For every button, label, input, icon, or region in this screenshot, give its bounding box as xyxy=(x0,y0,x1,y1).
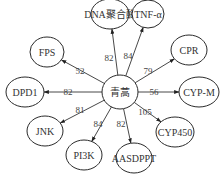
network-diagram: 828452798256811058482 青蒿DNA聚合酶TNF-αFPSCP… xyxy=(0,0,224,181)
node-fps: FPS xyxy=(30,37,64,67)
edge-weight-dpd1: 82 xyxy=(64,87,73,97)
node-center-label: 青蒿 xyxy=(110,86,130,98)
edge-weight-aasdppt: 82 xyxy=(117,119,126,129)
edge-weight-pi3k: 84 xyxy=(94,119,104,129)
node-cyp450: CYP450 xyxy=(156,117,194,147)
edge-weight-cypm: 56 xyxy=(150,87,160,97)
edge-weight-cyp450: 105 xyxy=(138,107,152,117)
node-aasdppt: AASDPPT xyxy=(112,143,156,173)
node-tnf: TNF-α xyxy=(132,0,164,28)
node-cpr: CPR xyxy=(171,35,207,65)
node-cyp450-label: CYP450 xyxy=(158,127,192,138)
node-jnk: JNK xyxy=(27,116,63,146)
node-dpd1: DPD1 xyxy=(6,77,44,107)
node-dna: DNA聚合酶 xyxy=(84,0,136,29)
node-cypm-label: CYP-M xyxy=(183,87,215,98)
edge-cpr xyxy=(135,59,174,83)
nodes: 青蒿DNA聚合酶TNF-αFPSCPRDPD1CYP-MJNKCYP450PI3… xyxy=(6,0,219,173)
node-aasdppt-label: AASDPPT xyxy=(112,153,156,164)
edge-weight-dna: 82 xyxy=(105,53,114,63)
edge-weight-cpr: 79 xyxy=(144,66,154,76)
node-tnf-label: TNF-α xyxy=(134,9,162,20)
node-pi3k-label: PI3K xyxy=(73,150,95,161)
node-pi3k: PI3K xyxy=(66,140,102,170)
node-dpd1-label: DPD1 xyxy=(12,87,37,98)
node-dna-label: DNA聚合酶 xyxy=(84,8,136,20)
edge-weight-tnf: 84 xyxy=(124,51,134,61)
node-cypm: CYP-M xyxy=(179,77,219,107)
node-jnk-label: JNK xyxy=(36,126,55,137)
node-cpr-label: CPR xyxy=(180,45,199,56)
edge-weight-jnk: 81 xyxy=(76,105,85,115)
node-fps-label: FPS xyxy=(39,47,56,58)
node-center: 青蒿 xyxy=(102,75,138,109)
edge-weight-fps: 52 xyxy=(76,66,85,76)
